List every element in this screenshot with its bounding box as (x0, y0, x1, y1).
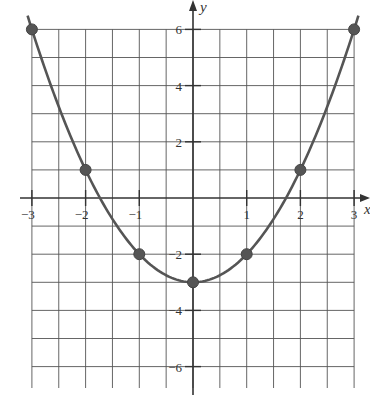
parabola-chart: −3−2−1123642−2−4−6 x y (0, 0, 370, 395)
x-tick-label: 3 (351, 207, 358, 222)
x-axis-label: x (363, 201, 370, 217)
y-tick-label: 2 (176, 135, 183, 150)
x-tick-label: 1 (243, 207, 250, 222)
x-tick-label: 2 (297, 207, 304, 222)
y-axis-arrow-icon (189, 0, 197, 11)
data-point (134, 249, 145, 260)
x-tick-label: −1 (128, 207, 142, 222)
data-point (80, 164, 91, 175)
y-tick-label: −6 (168, 360, 182, 375)
x-tick-label: −2 (75, 207, 89, 222)
data-point (349, 24, 360, 35)
data-point (241, 249, 252, 260)
data-point (26, 24, 37, 35)
y-tick-label: −4 (168, 303, 182, 318)
axes (20, 0, 370, 395)
data-point (188, 277, 199, 288)
y-axis-label: y (198, 0, 207, 15)
x-tick-label: −3 (21, 207, 35, 222)
y-tick-label: 6 (176, 22, 183, 37)
y-tick-label: 4 (176, 79, 183, 94)
data-point (295, 164, 306, 175)
y-tick-label: −2 (168, 247, 182, 262)
